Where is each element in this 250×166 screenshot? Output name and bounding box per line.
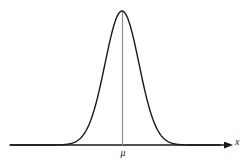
gaussian-curve-path bbox=[10, 11, 220, 145]
x-axis-label: x bbox=[235, 137, 239, 147]
normal-distribution-figure: μ x bbox=[0, 0, 250, 166]
mean-axis-label: μ bbox=[115, 148, 131, 158]
bell-curve-plot bbox=[0, 0, 250, 166]
